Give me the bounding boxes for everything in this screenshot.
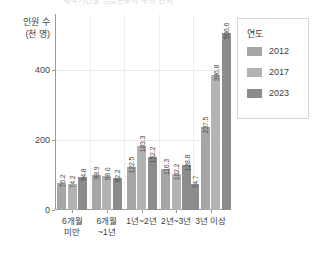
- bar-value-label: 98.9: [93, 167, 100, 180]
- bar-label-wrap: 76.2: [55, 175, 62, 188]
- x-category-label: 3년 이상: [185, 216, 237, 227]
- bar-label-wrap: 102.2: [169, 164, 176, 181]
- bar-label-wrap: 74.7: [188, 175, 195, 188]
- x-tick-mark: [107, 210, 108, 213]
- bar-label-wrap: 122.5: [124, 157, 131, 174]
- bar: 122.5: [127, 167, 136, 210]
- y-axis-title-line2: (천 명): [2, 28, 50, 40]
- bar-value-label: 128.8: [183, 155, 190, 172]
- plot-area: 020040076.274.294.898.998.092.2122.5183.…: [55, 14, 228, 210]
- bar: 237.5: [201, 127, 210, 210]
- y-tick-label: 400: [35, 65, 50, 75]
- gridline-vertical: [159, 14, 160, 209]
- bar-label-wrap: 128.8: [180, 155, 187, 172]
- bar-label-wrap: 183.3: [135, 136, 142, 153]
- bar: 98.9: [92, 175, 101, 210]
- y-tick-mark: [52, 140, 55, 141]
- x-tick-mark: [176, 210, 177, 213]
- bar-value-label: 237.5: [202, 117, 209, 134]
- gridline-vertical: [124, 14, 125, 209]
- bar-label-wrap: 98.9: [89, 167, 96, 180]
- legend-item-label: 2017: [269, 67, 289, 77]
- bar: 152.2: [148, 157, 157, 210]
- legend-swatch-icon: [247, 89, 262, 98]
- chart-title: 재직기간별 임금근로자 수의 변화: [0, 0, 236, 5]
- legend-item-label: 2012: [269, 46, 289, 56]
- bar-value-label: 74.7: [191, 175, 198, 188]
- legend-swatch-icon: [247, 68, 262, 77]
- legend-item-2012[interactable]: 2012: [247, 46, 289, 56]
- y-axis-title-line1: 인원 수: [2, 16, 50, 28]
- bar-label-wrap: 116.3: [159, 159, 166, 175]
- bar: 386.8: [211, 75, 220, 210]
- bar-value-label: 183.3: [138, 136, 145, 153]
- bar-label-wrap: 74.2: [65, 176, 72, 189]
- legend-title: 연도: [247, 27, 263, 40]
- bar-value-label: 506.6: [223, 22, 230, 39]
- y-tick-mark: [52, 210, 55, 211]
- bar: 74.2: [68, 184, 77, 210]
- legend-item-2017[interactable]: 2017: [247, 67, 289, 77]
- y-tick-label: 200: [35, 135, 50, 145]
- x-tick-mark: [142, 210, 143, 213]
- bar-label-wrap: 152.2: [145, 146, 152, 163]
- bar-label-wrap: 386.8: [209, 64, 216, 81]
- y-tick-mark: [52, 70, 55, 71]
- legend-item-label: 2023: [269, 88, 289, 98]
- legend-item-2023[interactable]: 2023: [247, 88, 289, 98]
- x-tick-mark: [211, 210, 212, 213]
- gridline-vertical: [90, 14, 91, 209]
- bar: 94.8: [78, 177, 87, 210]
- legend: 연도 201220172023: [237, 18, 309, 119]
- bar-label-wrap: 506.6: [219, 22, 226, 39]
- y-axis-title: 인원 수 (천 명): [2, 16, 50, 40]
- bar-value-label: 94.8: [79, 168, 86, 181]
- chart-container: 재직기간별 임금근로자 수의 변화 인원 수 (천 명) 020040076.2…: [0, 0, 316, 260]
- y-tick-label: 0: [45, 205, 50, 215]
- bar-value-label: 152.2: [149, 146, 156, 163]
- bar-label-wrap: 98.0: [100, 167, 107, 180]
- bar-label-wrap: 94.8: [76, 168, 83, 181]
- bar-value-label: 386.8: [212, 64, 219, 81]
- gridline-horizontal: [56, 70, 228, 71]
- bar-value-label: 122.5: [128, 157, 135, 174]
- bar-value-label: 74.2: [69, 176, 76, 189]
- bar-value-label: 102.2: [173, 164, 180, 181]
- legend-swatch-icon: [247, 47, 262, 56]
- bar-value-label: 92.2: [114, 169, 121, 182]
- bar: 74.7: [190, 184, 199, 210]
- x-tick-mark: [72, 210, 73, 213]
- bar: 506.6: [222, 33, 231, 210]
- bar-label-wrap: 92.2: [110, 169, 117, 182]
- bar-label-wrap: 237.5: [198, 117, 205, 134]
- bar: 102.2: [172, 174, 181, 210]
- bar: 92.2: [113, 178, 122, 210]
